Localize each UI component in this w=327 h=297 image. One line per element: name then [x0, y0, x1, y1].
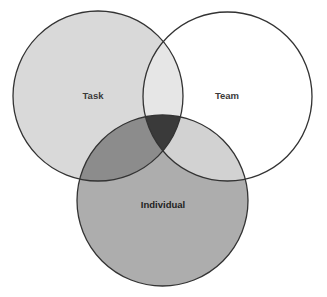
venn-diagram: Task Team Individual [0, 0, 327, 297]
team-label: Team [215, 90, 239, 101]
task-label: Task [83, 90, 105, 101]
individual-label: Individual [141, 199, 185, 210]
